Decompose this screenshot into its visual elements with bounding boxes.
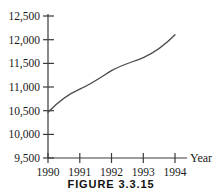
x-tick-label-1992: 1992 [100, 166, 123, 178]
y-axis-tick-labels: 12,500 12,000 11,500 11,000 10,500 10,00… [8, 10, 40, 165]
x-axis-tick-labels: 1990 1991 1992 1993 1994 [37, 166, 187, 178]
y-tick-label-12500: 12,500 [8, 10, 40, 23]
x-axis-title: Year [190, 151, 212, 165]
figure-container: 12,500 12,000 11,500 11,000 10,500 10,00… [0, 0, 222, 196]
y-tick-label-11500: 11,500 [9, 57, 40, 70]
y-tick-label-10500: 10,500 [8, 105, 40, 118]
x-tick-label-1991: 1991 [68, 166, 91, 178]
x-tick-label-1993: 1993 [132, 166, 155, 178]
y-tick-label-10000: 10,000 [8, 128, 40, 141]
figure-caption: FIGURE 3.3.15 [0, 178, 222, 190]
line-chart: 12,500 12,000 11,500 11,000 10,500 10,00… [0, 0, 222, 196]
data-series-line [48, 35, 175, 112]
x-tick-label-1994: 1994 [164, 166, 187, 178]
y-tick-label-12000: 12,000 [8, 34, 40, 47]
x-tick-label-1990: 1990 [37, 166, 60, 178]
y-tick-label-9500: 9,500 [14, 152, 40, 165]
y-tick-label-11000: 11,000 [9, 81, 40, 94]
